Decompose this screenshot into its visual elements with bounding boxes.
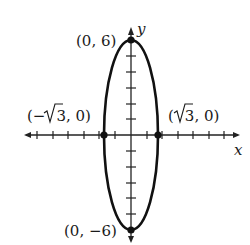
label-top-vertex: (0, 6): [76, 32, 116, 50]
y-axis-down-arrow-icon: [128, 236, 134, 243]
x-axis: x: [24, 131, 243, 159]
x-axis-label: x: [234, 141, 243, 159]
covertex-right-point: [154, 131, 161, 138]
svg-text:(−3, 0): (−3, 0): [27, 107, 91, 125]
svg-text:(3, 0): (3, 0): [168, 107, 219, 125]
label-right-covertex: (3, 0): [168, 104, 219, 125]
vertex-top-point: [127, 36, 134, 43]
label-left-covertex: (−3, 0): [27, 104, 91, 125]
x-axis-left-arrow-icon: [24, 132, 31, 138]
covertex-left-point: [100, 131, 107, 138]
vertex-bottom-point: [127, 226, 134, 233]
y-axis: y: [126, 20, 146, 243]
y-axis-up-arrow-icon: [128, 27, 134, 35]
y-axis-label: y: [136, 20, 146, 38]
label-bottom-vertex: (0, −6): [64, 222, 117, 240]
x-axis-right-arrow-icon: [233, 132, 240, 138]
ellipse-diagram: x y (0, 6) (0, −6) (−3, 0): [0, 0, 250, 245]
